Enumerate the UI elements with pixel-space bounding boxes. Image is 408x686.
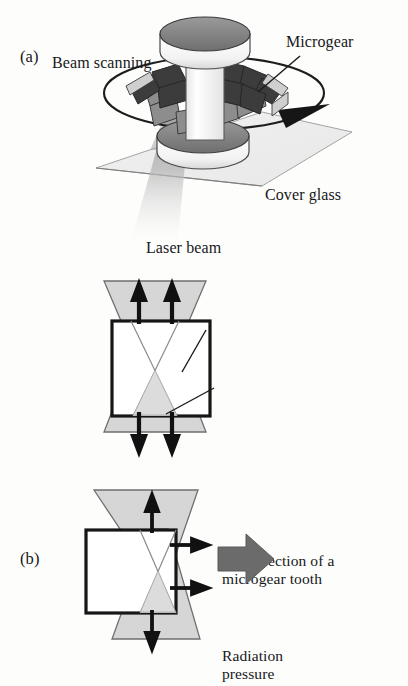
panel-a: (a) Beam scanning Microgear Cover glass … xyxy=(0,0,408,262)
panel-c: (c) Attractive force Moving laser beam xyxy=(0,467,408,686)
gear-top-disc xyxy=(160,17,250,69)
panel-b-graphic xyxy=(0,262,408,467)
label-laser-beam: Laser beam xyxy=(146,239,221,257)
figure-optical-microgear: (a) Beam scanning Microgear Cover glass … xyxy=(0,0,408,686)
label-beam-scanning: Beam scanning xyxy=(52,54,152,72)
label-cover-glass: Cover glass xyxy=(265,186,341,204)
panel-b: (b) Cross section of amicrogear tooth Ra… xyxy=(0,262,408,467)
attractive-force-block-arrow xyxy=(218,534,274,584)
label-microgear: Microgear xyxy=(286,33,354,51)
panel-c-graphic xyxy=(0,467,408,686)
panel-a-tag: (a) xyxy=(20,48,39,67)
